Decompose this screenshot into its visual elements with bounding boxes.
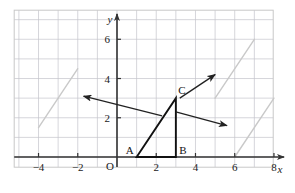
vertex-label-a: A <box>126 144 134 156</box>
x-tick-label: −2 <box>72 161 84 173</box>
y-axis-label: y <box>107 13 113 25</box>
x-tick-label: 4 <box>193 161 199 173</box>
origin-label: O <box>106 160 114 172</box>
y-tick-label: 2 <box>105 112 111 124</box>
x-tick-label: 2 <box>153 161 159 173</box>
x-tick-label: 8 <box>271 161 277 173</box>
coordinate-plane: −4−22468246 A B C x y O <box>0 0 295 193</box>
x-tick-label: −4 <box>33 161 45 173</box>
vertex-label-b: B <box>179 144 186 156</box>
x-tick-label: 6 <box>232 161 238 173</box>
y-tick-label: 6 <box>105 33 111 45</box>
x-axis-label: x <box>277 163 283 175</box>
vertex-label-c: C <box>178 84 185 96</box>
figure-canvas: −4−22468246 A B C x y O <box>0 0 295 193</box>
y-tick-label: 4 <box>105 73 111 85</box>
